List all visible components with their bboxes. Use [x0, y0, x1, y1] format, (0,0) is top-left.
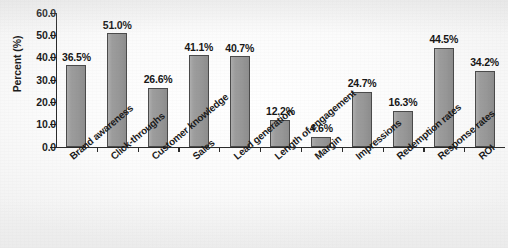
x-tick-mark	[260, 147, 261, 152]
x-tick-mark	[301, 147, 302, 152]
x-tick-mark	[423, 147, 424, 152]
x-axis-category-label: Sales	[191, 138, 216, 162]
x-axis-labels: Brand awarenessClick-throughsCustomer kn…	[0, 0, 508, 248]
x-axis-category-label: ROI	[477, 143, 496, 162]
chart-page: Percent (%) 0.010.020.030.040.050.060.0 …	[0, 0, 508, 248]
x-tick-mark	[383, 147, 384, 152]
x-tick-mark	[97, 147, 98, 152]
x-tick-mark	[219, 147, 220, 152]
x-axis-category-label: Margin	[313, 134, 343, 162]
x-tick-mark	[342, 147, 343, 152]
x-tick-mark	[178, 147, 179, 152]
x-tick-mark	[138, 147, 139, 152]
x-tick-mark	[464, 147, 465, 152]
